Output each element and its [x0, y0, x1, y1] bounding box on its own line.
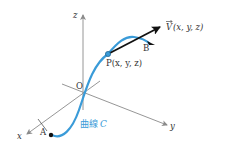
vector-v-label: V (x, y, z) — [166, 20, 203, 32]
point-a-label: A — [39, 127, 47, 137]
point-b-label: B — [143, 43, 149, 53]
diagram-canvas: z O y x A B P(x, y, z) V (x, y, z) 曲線 C — [0, 0, 227, 148]
curve-label-prefix: 曲線 — [80, 118, 98, 129]
tangent-vector-v — [108, 27, 160, 54]
z-axis-label: z — [72, 10, 78, 20]
vector-v-symbol: V — [166, 22, 173, 32]
x-axis-label: x — [17, 131, 22, 141]
point-p-label: P(x, y, z) — [106, 58, 142, 68]
point-p — [105, 51, 110, 56]
curve-c-label: 曲線 C — [80, 118, 107, 129]
start-point-a — [49, 133, 53, 137]
space-curve-diagram: z O y x A B P(x, y, z) V (x, y, z) 曲線 C — [0, 0, 227, 148]
y-axis-label: y — [169, 121, 175, 131]
vector-v-args: (x, y, z) — [173, 22, 203, 32]
origin-label: O — [76, 81, 83, 91]
curve-label-var: C — [100, 119, 107, 129]
